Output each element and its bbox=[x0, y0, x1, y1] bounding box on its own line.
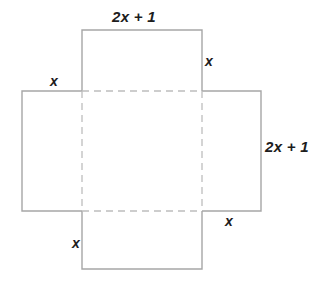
left-flap-outline bbox=[22, 91, 82, 211]
label-bottom-left-flap-height: x bbox=[72, 236, 80, 250]
label-left-flap-width: x bbox=[50, 74, 58, 88]
label-top-width: 2x + 1 bbox=[112, 9, 156, 24]
right-flap-outline bbox=[202, 91, 261, 211]
label-bottom-right-flap-width: x bbox=[225, 214, 233, 228]
label-right-height: 2x + 1 bbox=[265, 139, 309, 154]
bottom-flap-outline bbox=[82, 211, 202, 269]
geometry-net-figure: 2x + 1 x x 2x + 1 x x bbox=[0, 0, 330, 292]
label-top-right-flap-height: x bbox=[205, 54, 213, 68]
top-flap-outline bbox=[82, 30, 202, 91]
